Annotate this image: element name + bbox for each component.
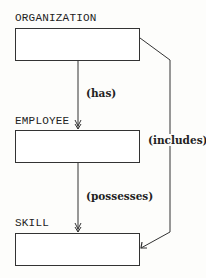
relationship-label-has: (has) [86, 87, 116, 99]
relationship-label-includes: (includes) [148, 134, 206, 146]
relationship-label-possesses: (possesses) [86, 190, 153, 202]
